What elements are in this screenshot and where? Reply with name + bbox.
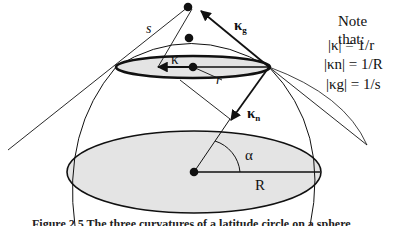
label-R: R bbox=[255, 177, 265, 193]
label-kappa-n: κn bbox=[247, 105, 260, 123]
figure-caption: Figure 2.5 The three curvatures of a lat… bbox=[32, 217, 351, 226]
sphere-center bbox=[190, 168, 199, 177]
small-circle-center bbox=[189, 63, 198, 72]
apex-point bbox=[184, 3, 193, 12]
sphere-top-point bbox=[185, 34, 194, 43]
note-kappa-g: |κg| = 1/s bbox=[326, 75, 381, 93]
label-kappa: κ bbox=[171, 51, 179, 67]
cone-line-left bbox=[8, 7, 188, 150]
note-kappa-n: |κn| = 1/R bbox=[324, 55, 383, 73]
label-s: s bbox=[146, 21, 152, 36]
note-kappa: |κ| = 1/r bbox=[328, 36, 374, 54]
label-alpha: α bbox=[245, 147, 253, 163]
sphere-curvature-diagram: s κ κg κn r R α bbox=[0, 0, 394, 226]
label-r: r bbox=[216, 72, 222, 87]
label-kappa-g: κg bbox=[234, 17, 247, 35]
construction-line bbox=[180, 80, 230, 119]
